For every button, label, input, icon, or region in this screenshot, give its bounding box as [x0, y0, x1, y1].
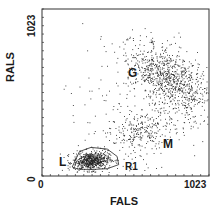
cluster-label-m: M [163, 137, 173, 151]
y-tick-max: 1023 [26, 15, 37, 37]
cluster-label-l: L [59, 155, 66, 169]
x-axis-label: FALS [110, 195, 138, 207]
x-tick-max: 1023 [184, 179, 206, 190]
y-tick-min: 0 [26, 176, 37, 182]
gate-label-r1: R1 [125, 161, 138, 172]
cluster-label-g: G [128, 66, 137, 80]
x-tick-min: 0 [38, 179, 44, 190]
y-axis-label: RALS [4, 52, 16, 82]
